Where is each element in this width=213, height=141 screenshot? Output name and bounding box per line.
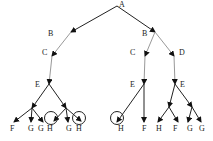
node-label-a: A [119,0,125,9]
node-label-l6: H [76,124,82,133]
node-label-l7: H [118,124,124,133]
edge-n4-L11 [188,107,192,122]
node-label-e3: E [180,80,185,89]
edge-n4-L12 [192,107,201,122]
node-label-l9: H [156,124,162,133]
highlight-circle [111,112,124,125]
edge-n3-L10 [169,107,178,122]
edge-E2-L7 [117,84,144,122]
node-label-l4: H [47,124,53,133]
edge-A-B2 [117,6,155,32]
edge-C1-E1 [49,56,52,84]
node-label-l1: F [10,124,15,133]
node-label-l5: G [66,124,72,133]
node-label-l3: G [38,124,44,133]
highlight-circle [45,112,58,125]
edge-E1-n2 [49,84,66,108]
node-labels: ABBCCDEEEFGGHGHHFHFGG [10,0,205,133]
edge-B1-C1 [52,32,71,56]
node-label-b1: B [48,29,53,38]
edge-C2-E2 [144,56,145,84]
edge-n3-L9 [158,107,169,122]
edge-E3-n3 [169,84,175,107]
edge-B2-D [155,32,174,56]
node-label-e1: E [35,80,40,89]
edge-n2-L4 [54,108,66,121]
edge-A-B1 [71,6,117,32]
node-label-l11: G [187,124,193,133]
node-label-l8: F [142,124,147,133]
tree-edges [14,6,201,122]
node-label-e2: E [130,80,135,89]
node-label-l12: G [199,124,205,133]
node-label-l10: F [173,124,178,133]
edge-D-E3 [174,56,175,84]
edge-n1-L3 [32,108,43,122]
edge-n1-L2 [31,108,32,122]
highlight-circle [73,112,86,125]
node-label-b2: B [142,29,147,38]
node-label-d: D [179,48,185,57]
node-label-c2: C [130,48,135,57]
node-label-c1: C [42,48,47,57]
edge-n1-L1 [14,108,32,122]
node-label-l2: G [28,124,34,133]
tree-diagram: ABBCCDEEEFGGHGHHFHFGG [0,0,213,141]
